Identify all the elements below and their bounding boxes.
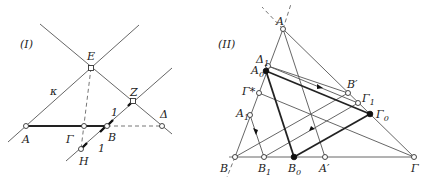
- label-A0-main: A: [250, 64, 259, 77]
- line-Delta1-Gamma1: [268, 66, 358, 103]
- line-GammaStar-Gamma: [259, 93, 414, 157]
- point-Bprime: [346, 91, 351, 96]
- panel-I-title: (I): [20, 38, 33, 51]
- label-one-top: 1: [111, 106, 118, 119]
- label-Gamma0-sub: 0: [384, 114, 389, 123]
- arrow-head-left: [253, 128, 258, 135]
- panel-II-title: (II): [218, 38, 235, 51]
- label-Gamma0-main: Γ: [375, 108, 384, 121]
- dashed-E-H: [81, 68, 91, 149]
- dashed-ext-B-down: [227, 157, 235, 177]
- label-Delta: Δ: [159, 108, 168, 121]
- label-B0-main: B: [287, 162, 296, 175]
- point-B1: [262, 155, 267, 160]
- label-Gamma1-main: Γ: [361, 92, 370, 105]
- point-Delta: [160, 124, 165, 129]
- label-B1: B1: [257, 162, 271, 177]
- label-Gamma1: Γ1: [361, 92, 375, 107]
- label-B: B: [219, 162, 228, 175]
- label-Aprime: A′: [318, 162, 330, 175]
- label-B0-sub: 0: [296, 168, 301, 177]
- panel-I: (I) E κ Z 1 Δ A Γ: [8, 24, 172, 168]
- point-E: [89, 66, 94, 71]
- label-Gamma0: Γ0: [375, 108, 389, 123]
- label-Bprime: B′: [346, 78, 358, 91]
- point-B0: [291, 154, 297, 160]
- geometry-figure: (I) E κ Z 1 Δ A Γ: [0, 0, 426, 193]
- point-H: [79, 147, 84, 152]
- dashed-ext-A-right: [283, 4, 291, 29]
- label-Gamma: Γ: [410, 162, 419, 175]
- label-Z: Z: [129, 86, 138, 99]
- point-B: [105, 124, 110, 129]
- label-A0-sub: 0: [259, 70, 264, 79]
- point-Gamma1: [356, 101, 361, 106]
- label-A1: A1: [235, 107, 249, 122]
- label-A: A: [275, 15, 284, 28]
- point-GammaStar: [257, 91, 262, 96]
- label-B1-sub: 1: [266, 168, 271, 177]
- arrow-mark-B-lower: [100, 127, 105, 132]
- line-A1-B1: [250, 115, 264, 157]
- label-one-bottom: 1: [98, 142, 105, 155]
- arrow-head-middle: [309, 126, 315, 131]
- line-E-Delta: [40, 24, 172, 134]
- label-Delta1-sub: 1: [264, 59, 269, 68]
- point-Gamma: [412, 155, 417, 160]
- segment-B0-Gamma0: [294, 114, 370, 157]
- label-kappa: κ: [49, 85, 58, 98]
- label-A0: A0: [250, 64, 264, 79]
- point-Aprime: [323, 155, 328, 160]
- point-B: [233, 155, 238, 160]
- label-E: E: [86, 50, 95, 63]
- point-Gamma0: [367, 111, 373, 117]
- label-B1-main: B: [257, 162, 266, 175]
- panel-II: (II): [218, 4, 419, 177]
- point-Z: [131, 99, 136, 104]
- label-H: H: [78, 155, 89, 168]
- point-Gamma: [82, 124, 87, 129]
- label-A: A: [21, 133, 30, 146]
- label-B0: B0: [287, 162, 301, 177]
- label-B: B: [107, 131, 116, 144]
- label-Gamma: Γ: [65, 133, 74, 146]
- label-GammaStar: Γ*: [241, 85, 256, 98]
- label-A1-main: A: [235, 107, 244, 120]
- label-A1-sub: 1: [244, 113, 249, 122]
- point-A: [24, 124, 29, 129]
- segment-A0-B0: [266, 71, 294, 157]
- label-Gamma1-sub: 1: [370, 98, 375, 107]
